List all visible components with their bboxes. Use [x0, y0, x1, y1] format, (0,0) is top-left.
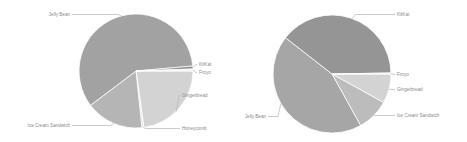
leader-line	[193, 65, 197, 68]
slice-label: Gingerbread	[397, 87, 423, 92]
pie-slice-gingerbread[interactable]	[136, 71, 193, 127]
chart-container: GingerbreadHoneycombIce Cream SandwichJe…	[0, 0, 467, 142]
pie-charts: GingerbreadHoneycombIce Cream SandwichJe…	[0, 0, 467, 142]
slice-label: Gingerbread	[182, 93, 208, 98]
leader-line	[391, 73, 395, 74]
slice-label: KitKat	[397, 12, 410, 17]
slice-label: Froyo	[397, 72, 409, 77]
slice-label: Ice Cream Sandwich	[28, 123, 71, 128]
leader-line	[143, 128, 180, 129]
leader-line	[352, 15, 395, 19]
slice-label: Jelly Bean	[49, 12, 71, 17]
slice-label: Ice Cream Sandwich	[397, 113, 440, 118]
slice-label: Jelly Bean	[245, 114, 267, 119]
leader-line	[72, 123, 114, 125]
slice-label: Honeycomb	[182, 126, 207, 131]
leader-line	[72, 15, 121, 16]
slice-label: Froyo	[199, 70, 211, 75]
leader-line	[193, 70, 197, 72]
pie-chart-2: GingerbreadIce Cream SandwichJelly BeanK…	[245, 12, 440, 133]
leader-line	[268, 104, 281, 117]
slice-label: KitKat	[199, 62, 212, 67]
pie-chart-1: GingerbreadHoneycombIce Cream SandwichJe…	[28, 12, 212, 131]
